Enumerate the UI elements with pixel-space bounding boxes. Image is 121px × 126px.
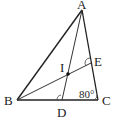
label-c: C	[102, 93, 111, 108]
angle-arc-d	[57, 95, 61, 100]
point-i	[66, 72, 70, 76]
label-a: A	[77, 0, 87, 12]
label-d: D	[57, 105, 66, 120]
label-i: I	[60, 60, 64, 75]
triangle-diagram: A B C D E I 80°	[0, 0, 121, 126]
label-e: E	[94, 54, 102, 69]
label-b: B	[4, 93, 13, 108]
angle-label-c: 80°	[79, 88, 94, 100]
